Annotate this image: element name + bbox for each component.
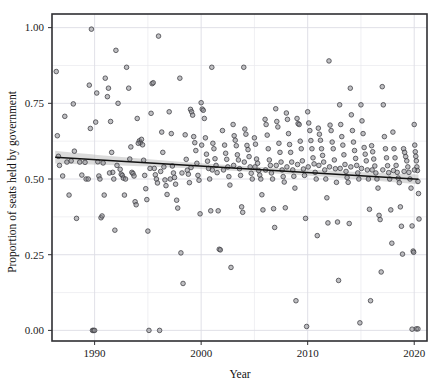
data-point — [253, 142, 258, 147]
data-point — [325, 195, 330, 200]
data-point — [391, 130, 396, 135]
data-point — [300, 159, 305, 164]
data-point — [129, 145, 134, 150]
data-point — [116, 101, 121, 106]
data-point — [223, 151, 228, 156]
data-point — [241, 65, 246, 70]
y-tick-label: 0.50 — [25, 173, 45, 185]
data-point — [197, 178, 202, 183]
data-point — [337, 103, 342, 108]
scatter-plot-figure: 1990200020102020 0.000.250.500.751.00 Ye… — [0, 0, 443, 384]
data-point — [232, 133, 237, 138]
data-point — [363, 152, 368, 157]
data-point — [394, 163, 399, 168]
data-point — [259, 177, 264, 182]
data-point — [376, 186, 381, 191]
data-point — [329, 128, 334, 133]
data-point — [295, 162, 300, 167]
data-point — [180, 171, 185, 176]
data-point — [92, 328, 97, 333]
data-point — [98, 177, 103, 182]
data-point — [115, 163, 120, 168]
data-point — [411, 250, 416, 255]
data-point — [293, 186, 298, 191]
data-point — [304, 324, 309, 329]
data-point — [310, 146, 315, 151]
data-point — [319, 146, 324, 151]
data-point — [174, 198, 179, 203]
data-point — [334, 180, 339, 185]
data-point — [132, 174, 137, 179]
data-point — [335, 220, 340, 225]
data-point — [404, 159, 409, 164]
data-point — [94, 91, 99, 96]
data-point — [62, 114, 67, 119]
data-point — [159, 130, 164, 135]
data-point — [242, 160, 247, 165]
data-point — [327, 165, 332, 170]
data-point — [249, 171, 254, 176]
data-point — [135, 116, 140, 121]
data-point — [370, 168, 375, 173]
data-point — [379, 270, 384, 275]
data-point — [322, 168, 327, 173]
data-point — [383, 146, 388, 151]
x-tick-label: 1990 — [84, 347, 107, 359]
data-point — [326, 221, 331, 226]
data-point — [227, 174, 232, 179]
data-point — [278, 150, 283, 155]
data-point — [339, 134, 344, 139]
data-point — [315, 233, 320, 238]
data-point — [285, 165, 290, 170]
data-point — [136, 141, 141, 146]
data-point — [210, 65, 215, 70]
data-point — [109, 150, 114, 155]
data-point — [414, 154, 419, 159]
data-point — [204, 152, 209, 157]
data-point — [77, 160, 82, 165]
data-point — [370, 149, 375, 154]
data-point — [353, 156, 358, 161]
data-point — [228, 183, 233, 188]
data-point — [192, 140, 197, 145]
data-point — [407, 170, 412, 175]
data-point — [107, 171, 112, 176]
data-point — [286, 131, 291, 136]
data-point — [89, 27, 94, 32]
data-point — [306, 165, 311, 170]
data-point — [378, 217, 383, 222]
data-point — [181, 281, 186, 286]
data-point — [311, 156, 316, 161]
data-point — [338, 122, 343, 127]
data-point — [235, 152, 240, 157]
y-tick-label: 0.75 — [25, 97, 45, 109]
data-point — [343, 162, 348, 167]
data-point — [410, 327, 415, 332]
data-point — [289, 160, 294, 165]
data-point — [213, 156, 218, 161]
data-point — [393, 156, 398, 161]
data-point — [184, 157, 189, 162]
data-point — [351, 140, 356, 145]
data-point — [321, 160, 326, 165]
data-point — [342, 152, 347, 157]
data-point — [344, 169, 349, 174]
data-point — [198, 212, 203, 217]
data-point — [314, 177, 319, 182]
data-point — [175, 206, 180, 211]
data-point — [261, 208, 266, 213]
data-point — [392, 146, 397, 151]
data-point — [299, 146, 304, 151]
x-axis-title: Year — [229, 368, 250, 380]
data-point — [106, 86, 111, 91]
data-point — [332, 158, 337, 163]
data-point — [134, 202, 139, 207]
data-point — [83, 160, 88, 165]
data-point — [146, 229, 151, 234]
data-point — [318, 138, 323, 143]
data-point — [283, 205, 288, 210]
data-point — [416, 191, 421, 196]
data-point — [105, 94, 110, 99]
data-point — [201, 108, 206, 113]
data-point — [366, 177, 371, 182]
